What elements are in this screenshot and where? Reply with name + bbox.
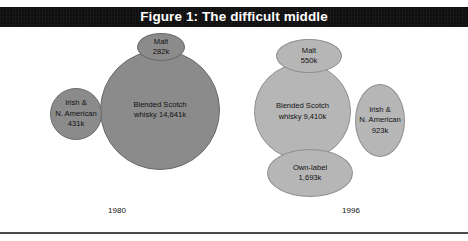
bubble-label-line2: whisky 14,641k <box>134 110 186 120</box>
bubble-value-label: 1,693k <box>299 173 322 183</box>
bubble-irish-n-american-1980[interactable]: Irish & N. American 431k <box>50 88 102 140</box>
bubble-label-line1: Irish & <box>65 98 87 108</box>
bubble-chart-plot-area: Blended Scotch whisky 14,641k Malt 282k … <box>0 27 468 214</box>
bubble-label-line1: Malt <box>302 46 316 56</box>
figure-container: Figure 1: The difficult middle Blended S… <box>0 0 468 241</box>
bubble-label-line2: N. American <box>359 115 400 125</box>
bubble-blended-scotch-1996[interactable]: Blended Scotch whisky 9,410k <box>254 63 351 160</box>
page-title: Figure 1: The difficult middle <box>140 10 328 24</box>
bubble-group-1980: Blended Scotch whisky 14,641k Malt 282k … <box>0 27 234 214</box>
bubble-malt-1996[interactable]: Malt 550k <box>276 39 342 73</box>
bubble-label-line2: N. American <box>55 109 96 119</box>
group-year-label-1996: 1996 <box>234 207 468 215</box>
bubble-blended-scotch-1980[interactable]: Blended Scotch whisky 14,641k <box>100 50 220 170</box>
bottom-divider <box>0 232 468 234</box>
group-year-label-1980: 1980 <box>0 207 234 215</box>
bubble-value-label: 550k <box>301 56 317 66</box>
bubble-label-line2: whisky 9,410k <box>279 112 327 122</box>
bubble-label-line1: Blended Scotch <box>133 100 186 110</box>
bubble-group-1996: Blended Scotch whisky 9,410k Malt 550k I… <box>234 27 468 214</box>
bubble-label-line1: Own-label <box>293 163 327 173</box>
bubble-own-label-1996[interactable]: Own-label 1,693k <box>267 149 353 197</box>
bubble-label-line1: Malt <box>154 37 168 47</box>
bubble-label-line1: Irish & <box>369 105 391 115</box>
bubble-malt-1980[interactable]: Malt 282k <box>137 33 185 61</box>
bubble-irish-n-american-1996[interactable]: Irish & N. American 923k <box>355 84 405 157</box>
bubble-value-label: 282k <box>153 47 169 57</box>
bubble-value-label: 923k <box>372 126 388 136</box>
bubble-label-line1: Blended Scotch <box>276 101 329 111</box>
bubble-value-label: 431k <box>68 119 84 129</box>
figure-title-band: Figure 1: The difficult middle <box>0 7 468 27</box>
